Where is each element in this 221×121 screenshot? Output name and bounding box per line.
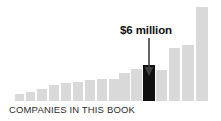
bar-chart-figure: $6 million COMPANIES IN THIS BOOK [0,0,221,121]
bar-8 [97,79,107,101]
bar-6 [73,82,83,101]
bar-7 [85,80,95,101]
chart-caption: COMPANIES IN THIS BOOK [9,104,135,115]
bar-16 [196,7,208,101]
bar-15 [182,45,194,101]
bar-5 [61,83,71,101]
bar-11 [131,69,142,101]
bar-9 [109,79,119,101]
bar-10 [119,73,130,101]
bar-2 [26,92,35,101]
bar-1 [15,94,24,101]
bar-12-highlighted [143,65,155,101]
bar-4 [49,85,59,101]
bar-3 [37,89,47,101]
chart-plot-area [0,0,221,101]
bar-13 [156,70,167,101]
bar-14 [169,48,180,101]
